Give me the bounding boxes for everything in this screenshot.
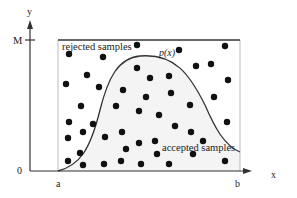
x-axis-arrow-icon [243,168,252,174]
sample-dot [134,42,140,48]
y-axis-arrow-icon [27,20,33,29]
sample-dot [100,54,106,60]
sample-dot [190,151,196,157]
sample-dot [211,94,217,100]
sample-dot [225,77,231,83]
sample-dot [193,63,199,69]
sample-dot [65,135,71,141]
sample-dot [154,151,160,157]
x-end-label: b [235,178,240,189]
sample-dot [136,140,142,146]
sample-dot [222,158,228,164]
sample-dot [152,138,158,144]
sample-dot [63,81,69,87]
sample-dot [119,129,125,135]
sample-dot [200,138,206,144]
sample-dot [84,72,90,78]
x-start-label: a [56,178,61,189]
sample-dot [208,61,214,67]
y-max-label: M [13,35,23,46]
sample-dot [166,161,172,167]
sample-dot [156,112,162,118]
sample-dot [172,123,178,129]
sample-dot [138,161,144,167]
sample-dot [147,75,153,81]
sample-dot [224,119,230,125]
sample-dot [78,103,84,109]
sample-dot [134,65,140,71]
sample-dot [166,73,172,79]
rejected-samples-label: rejected samples [62,41,132,52]
sample-dot [168,90,174,96]
sample-dot [66,51,72,57]
x-axis-label: x [271,169,276,180]
sample-dot [102,134,108,140]
sample-dot [187,102,193,108]
sample-dot [113,103,119,109]
sample-dot [80,129,86,135]
origin-label: 0 [17,165,22,176]
sample-dot [80,162,86,168]
sample-dot [66,119,72,125]
sample-dot [101,161,107,167]
accepted-samples-label: accepted samples [162,142,235,153]
sample-dot [77,150,83,156]
sample-dot [176,47,182,53]
rejection-sampling-diagram: y M 0 a b x p(x) rejected samples accept… [0,0,297,198]
sample-dot [118,158,124,164]
sample-dot [123,146,129,152]
y-axis-label: y [27,6,32,17]
sample-dot [222,43,228,49]
curve-label: p(x) [158,47,176,59]
sample-dot [96,84,102,90]
sample-dot [120,87,126,93]
sample-dot [65,158,71,164]
sample-dot [90,121,96,127]
sample-dot [136,108,142,114]
sample-dot [143,94,149,100]
sample-dot [188,129,194,135]
